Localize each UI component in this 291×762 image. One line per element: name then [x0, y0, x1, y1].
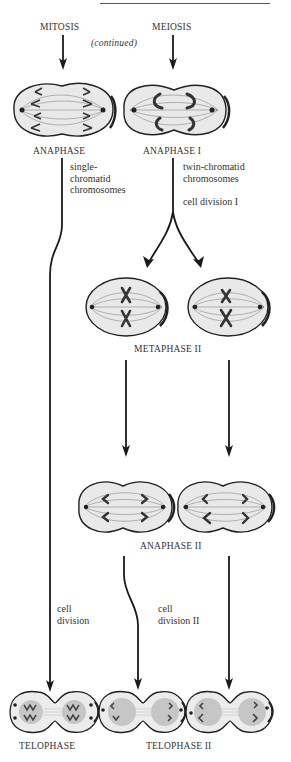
label-anaphase-i: ANAPHASE I: [143, 146, 201, 156]
cell-anaphase-ii-left: [79, 482, 174, 532]
note-cell-division: cell division: [57, 603, 89, 626]
note-cell-division-i: cell division I: [183, 196, 238, 208]
cell-telophase-ii-right: [186, 692, 273, 733]
cell-telophase-ii-left: [99, 692, 186, 733]
label-metaphase-ii: METAPHASE II: [134, 344, 201, 354]
note-single-chromatid: single- chromatid chromosomes: [70, 161, 126, 196]
arrow-meiosis-top: [169, 35, 177, 70]
cell-metaphase-ii-right: [188, 278, 270, 336]
note-twin-chromatid: twin-chromatid chromosomes: [183, 161, 245, 184]
label-telophase-ii: TELOPHASE II: [146, 741, 211, 751]
label-anaphase-ii: ANAPHASE II: [140, 541, 202, 551]
arrow-mitosis-top: [59, 35, 67, 70]
note-cell-division-ii: cell division II: [158, 603, 199, 626]
cell-anaphase-i: [124, 85, 229, 134]
cell-telophase-mitosis: [10, 692, 99, 733]
meiosis-diagram: [0, 0, 291, 762]
cell-anaphase-mitosis: [14, 84, 115, 136]
label-telophase: TELOPHASE: [19, 741, 75, 751]
cell-metaphase-ii-left: [86, 278, 168, 336]
cell-anaphase-ii-right: [178, 482, 274, 532]
label-anaphase: ANAPHASE: [33, 146, 85, 156]
